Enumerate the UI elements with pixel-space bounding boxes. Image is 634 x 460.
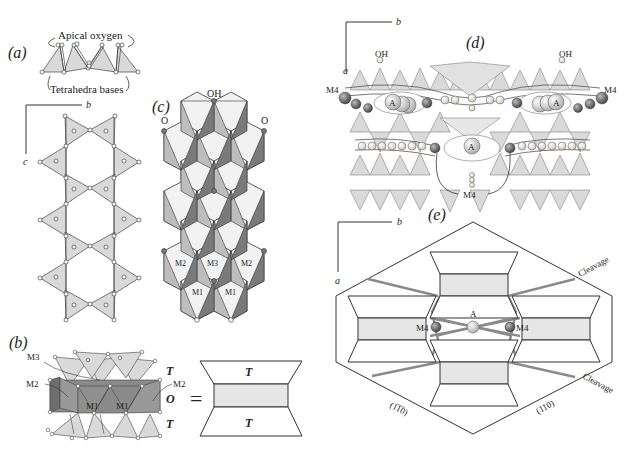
- site-m2-left-label: M2: [26, 379, 39, 389]
- axis-c-label: c: [23, 156, 28, 167]
- axis-ab-e: [338, 222, 392, 272]
- cleavage-bottom-label: Cleavage: [581, 371, 615, 396]
- m4-sphere: [339, 92, 351, 104]
- i-beam-right-t2: [512, 340, 600, 362]
- cleavage-top-label: Cleavage: [576, 254, 610, 279]
- site-m3: M3: [207, 259, 218, 268]
- m4-left-label-e: M4: [416, 323, 429, 333]
- m4-right-e: [505, 322, 515, 332]
- panel-c-label: (c): [152, 98, 170, 116]
- a-label-right: A: [553, 98, 560, 108]
- site-m1-left-label: M1: [86, 401, 99, 411]
- m4-bracket-left: [436, 153, 458, 194]
- layer-type-labels: T O T: [166, 364, 175, 431]
- site-m2-left: M2: [175, 259, 186, 268]
- a-label-center: A: [468, 142, 475, 152]
- i-beam-octa: [214, 384, 288, 407]
- m4-left-label-d: M4: [326, 85, 339, 95]
- panel-e: b a (e): [335, 206, 615, 434]
- o-label: O: [166, 392, 175, 406]
- oh-site: [212, 99, 217, 104]
- bases-bracket-right: [126, 76, 129, 91]
- panel-c: (c) OH O O: [152, 88, 268, 322]
- i-beam-top-o: [440, 274, 508, 296]
- m4-bottom-label-d: M4: [463, 190, 476, 200]
- i-beam-top-label: T: [245, 365, 253, 379]
- a-label-e: A: [470, 309, 477, 319]
- m4-left-e: [431, 322, 441, 332]
- axis-a-label-d: a: [343, 65, 348, 76]
- i-beam-left-t2: [348, 340, 436, 362]
- i-beam-left-t1: [348, 296, 436, 318]
- panel-a-label: (a): [8, 44, 27, 62]
- amphibole-structure-figure: (a) Apical oxygen Tetrahedra bases b: [0, 0, 634, 460]
- axis-ab-d: [346, 22, 392, 72]
- i-beam-bottom-o: [440, 362, 508, 384]
- face-1-10-label: (1̅1̅0): [388, 400, 410, 418]
- panel-b: (b): [9, 334, 302, 440]
- tetrahedra-bases-label: Tetrahedra bases: [50, 83, 123, 95]
- panel-a: (a) Apical oxygen Tetrahedra bases b: [8, 29, 141, 322]
- i-beam-bottom-label: T: [245, 416, 253, 430]
- axis-b-label: b: [86, 99, 91, 110]
- i-beam-bottom-t2: [430, 384, 518, 406]
- apical-oxygen-label: Apical oxygen: [58, 29, 123, 41]
- panel-b-label: (b): [9, 334, 28, 352]
- site-m1-right: M1: [225, 288, 236, 297]
- i-beam-top-t1: [430, 252, 518, 274]
- oh-label: OH: [207, 88, 221, 99]
- panel-d-label: (d): [466, 34, 485, 52]
- axis-b-label-d: b: [396, 16, 401, 27]
- panel-d: b a (d) OH OH: [326, 16, 617, 212]
- a-label-left: A: [389, 98, 396, 108]
- axis-a-label-e: a: [335, 275, 340, 286]
- o-right-label: O: [261, 115, 268, 126]
- site-m2-right: M2: [241, 259, 252, 268]
- panel-e-label: (e): [428, 206, 446, 224]
- equals-sign: =: [190, 386, 202, 411]
- site-m2-right-label: M2: [173, 379, 186, 389]
- apical-bracket-left: [49, 38, 56, 47]
- i-beam-right-t1: [512, 296, 600, 318]
- apical-bracket-right: [128, 35, 134, 47]
- m4-right-label-d: M4: [604, 85, 617, 95]
- o-left-label: O: [161, 115, 168, 126]
- t-bottom-label: T: [166, 417, 174, 431]
- t-top-label: T: [166, 364, 174, 378]
- site-m1-left: M1: [192, 288, 203, 297]
- site-m1-right-label: M1: [116, 401, 129, 411]
- axis-b-label-e: b: [397, 216, 402, 227]
- i-beam-right-o: [522, 318, 590, 340]
- m4-right-label-e: M4: [516, 323, 529, 333]
- a-site-e: [467, 321, 479, 333]
- site-m3-label: M3: [27, 352, 40, 362]
- i-beam-bottom-t1: [430, 340, 518, 362]
